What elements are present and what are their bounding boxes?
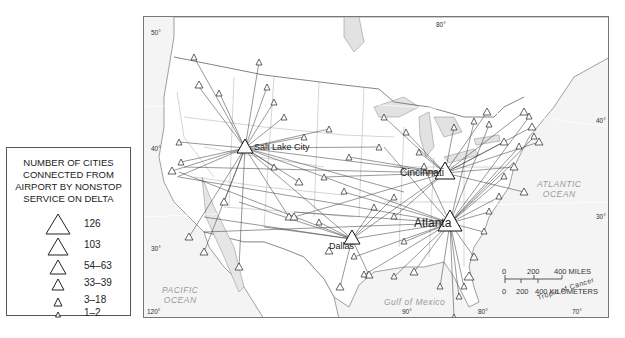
gulf-of-mexico-label: Gulf of Mexico [384,297,445,307]
legend-entry: 54–63 [7,257,130,273]
scale-miles-0: 0 [502,267,506,276]
legend-entry: 126 [7,213,130,229]
legend-label: 1–2 [84,307,101,318]
latitude-50-label: 50° [151,29,161,36]
triangle-icon [45,257,71,275]
ocean-label-line: ATLANTIC [537,179,581,189]
legend-title-line: CONNECTED FROM [7,169,130,181]
legend-entry: 1–2 [7,306,130,322]
scale-miles-400: 400 MILES [554,267,591,276]
triangle-icon [45,275,71,291]
legend-title-line: AIRPORT BY NONSTOP [7,181,130,193]
triangle-icon [45,213,71,235]
latitude-30-label: 30° [151,245,161,252]
legend-label: 33–39 [84,277,112,288]
ocean-label-line: OCEAN [162,295,198,305]
longitude-80-top-label: 80° [436,21,446,28]
scale-bar [505,275,562,283]
scale-km-0: 0 [502,287,506,296]
legend-entry: 103 [7,236,130,252]
latitude-40-east-label: 40° [596,117,606,124]
scale-miles-200: 200 [527,267,540,276]
legend-box: NUMBER OF CITIES CONNECTED FROM AIRPORT … [6,147,131,316]
legend-title: NUMBER OF CITIES CONNECTED FROM AIRPORT … [7,157,130,205]
latitude-40-label: 40° [151,145,161,152]
longitude-70-label: 70° [572,308,582,315]
scale-km-400: 400 KILOMETERS [535,287,598,296]
hub-label-cincinnati: Cincinnati [400,167,444,178]
legend-entry: 33–39 [7,275,130,291]
hub-label-dallas: Dallas [329,241,354,251]
triangle-icon [45,306,71,320]
longitude-80-label: 80° [478,308,488,315]
hub-label-atlanta: Atlanta [414,216,451,230]
longitude-90-label: 90° [402,308,412,315]
scale-km-200: 200 [516,287,529,296]
legend-label: 126 [84,218,101,229]
legend-title-line: NUMBER OF CITIES [7,157,130,169]
legend-label: 3–18 [84,294,106,305]
legend-label: 103 [84,239,101,250]
route-map: Salt Lake City Cincinnati Atlanta Dallas… [143,16,609,318]
legend-title-line: SERVICE ON DELTA [7,193,130,205]
pacific-ocean-label: PACIFIC OCEAN [162,285,198,305]
atlantic-ocean-label: ATLANTIC OCEAN [537,179,581,199]
hub-label-salt-lake-city: Salt Lake City [254,142,310,152]
latitude-30-east-label: 30° [596,213,606,220]
ocean-label-line: PACIFIC [162,285,198,295]
ocean-label-line: OCEAN [537,189,581,199]
legend-label: 54–63 [84,260,112,271]
triangle-icon [45,236,71,256]
longitude-120-label: 120° [147,308,160,315]
